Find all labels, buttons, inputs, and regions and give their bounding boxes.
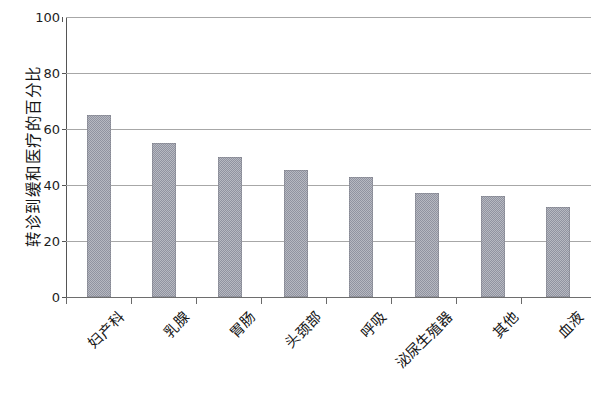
gridline-0 (66, 297, 591, 298)
bar-3 (284, 170, 308, 297)
x-tick-mark-7 (521, 298, 522, 304)
x-tick-mark-5 (391, 298, 392, 304)
x-axis-label-6: 其他 (486, 306, 521, 341)
x-tick-mark-3 (261, 298, 262, 304)
bar-7 (546, 207, 570, 297)
y-axis-tick-labels: 0 20 40 60 80 100 (20, 0, 60, 397)
y-tick-mark-100 (62, 17, 63, 22)
bar-0 (87, 115, 111, 297)
x-axis-label-3: 头颈部 (279, 306, 325, 352)
x-tick-mark-1 (131, 298, 132, 304)
gridline-60 (66, 129, 591, 130)
x-axis-label-4: 呼吸 (355, 306, 390, 341)
x-axis-label-1: 乳腺 (158, 306, 193, 341)
y-tick-label-60: 60 (26, 122, 60, 137)
x-axis-label-7: 血液 (552, 306, 587, 341)
x-tick-mark-2 (196, 298, 197, 304)
y-tick-label-40: 40 (26, 178, 60, 193)
bar-1 (152, 143, 176, 297)
gridline-20 (66, 241, 591, 242)
bar-2 (218, 157, 242, 297)
x-axis-label-5: 泌尿生殖器 (390, 306, 456, 372)
gridline-40 (66, 185, 591, 186)
x-tick-mark-6 (456, 298, 457, 304)
y-tick-label-20: 20 (26, 234, 60, 249)
y-tick-label-100: 100 (26, 10, 60, 25)
bar-chart: 转诊到缓和医疗的百分比 0 20 40 60 80 100 (0, 0, 591, 397)
x-axis-label-0: 妇产科 (82, 306, 128, 352)
x-tick-mark-4 (326, 298, 327, 304)
bar-6 (481, 196, 505, 297)
y-tick-label-80: 80 (26, 66, 60, 81)
plot-area (66, 17, 591, 297)
bar-5 (415, 193, 439, 297)
bar-4 (349, 177, 373, 297)
y-tick-label-0: 0 (26, 290, 60, 305)
gridline-80 (66, 73, 591, 74)
x-axis-label-2: 胃肠 (224, 306, 259, 341)
gridline-100 (66, 17, 591, 18)
x-tick-mark-0 (66, 298, 67, 304)
